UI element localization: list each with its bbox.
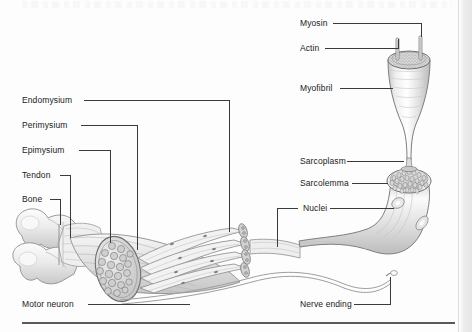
label-epimysium: Epimysium xyxy=(22,145,64,155)
muscle-illustration xyxy=(0,0,472,332)
leader-nerve-ending xyxy=(354,277,390,304)
label-sarcoplasm: Sarcoplasm xyxy=(300,156,346,166)
label-myosin: Myosin xyxy=(300,18,328,28)
label-actin: Actin xyxy=(300,43,319,53)
leader-endomysium xyxy=(84,100,229,232)
label-motor-neuron: Motor neuron xyxy=(22,299,74,309)
leader-myosin xyxy=(333,23,421,37)
myofibril-graphic xyxy=(388,51,430,172)
sarcolemma-cut-face xyxy=(387,169,431,193)
label-perimysium: Perimysium xyxy=(22,120,67,130)
leader-actin xyxy=(325,39,398,48)
label-endomysium: Endomysium xyxy=(22,95,72,105)
label-nerve-ending: Nerve ending xyxy=(300,299,352,309)
label-sarcolemma: Sarcolemma xyxy=(300,178,349,188)
label-tendon: Tendon xyxy=(22,170,51,180)
figure-page: Endomysium Perimysium Epimysium Tendon B… xyxy=(0,0,472,332)
myofibril-top-face xyxy=(388,51,430,69)
label-myofibril: Myofibril xyxy=(300,83,333,93)
label-nuclei: Nuclei xyxy=(303,203,327,213)
label-bone: Bone xyxy=(22,194,42,204)
